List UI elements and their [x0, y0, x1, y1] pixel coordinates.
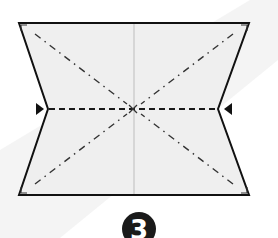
- origami-diagram: 3: [0, 0, 278, 238]
- step-number: 3: [130, 215, 148, 238]
